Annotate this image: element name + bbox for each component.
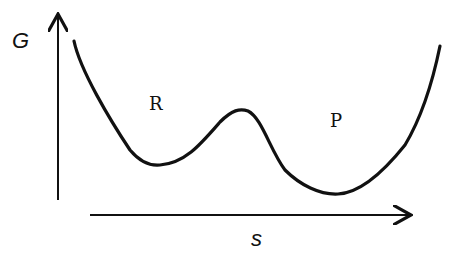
reactant-label: R xyxy=(149,93,163,114)
energy-diagram xyxy=(0,0,454,259)
y-axis-label: G xyxy=(12,28,29,54)
product-label: P xyxy=(330,110,342,131)
x-axis-label: s xyxy=(251,226,262,252)
energy-curve xyxy=(74,41,440,194)
